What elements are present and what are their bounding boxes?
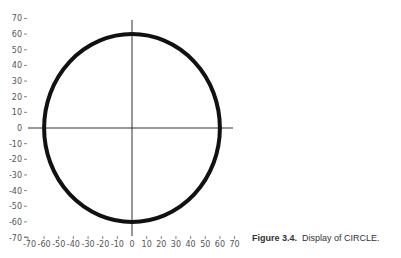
figure-label: Figure 3.4. — [252, 233, 297, 243]
x-tick-label: -30 — [82, 240, 95, 249]
x-tick-label: -10 — [111, 240, 124, 249]
y-tick-label: -10 — [9, 140, 22, 149]
y-tick-label: 60 — [12, 30, 22, 39]
x-tick-label: 0 — [129, 240, 134, 249]
x-tick-label: 40 — [186, 240, 196, 249]
x-axis-ticks: -70-60-50-40-30-20-10010203040506070 — [23, 236, 240, 249]
y-tick-label: 20 — [12, 93, 22, 102]
y-tick-label: -70 — [9, 234, 22, 243]
circle-plot: 706050403020100-10-20-30-40-50-60-70 -70… — [0, 0, 401, 258]
y-tick-label: -60 — [9, 218, 22, 227]
y-tick-label: 10 — [12, 108, 22, 117]
x-tick-label: -40 — [67, 240, 80, 249]
x-tick-label: -20 — [96, 240, 109, 249]
x-tick-label: -60 — [38, 240, 51, 249]
figure-caption-text: Display of CIRCLE. — [302, 233, 380, 243]
x-tick-label: -70 — [23, 240, 36, 249]
figure-caption: Figure 3.4.Display of CIRCLE. — [252, 233, 380, 243]
x-tick-label: 60 — [215, 240, 225, 249]
y-tick-label: -40 — [9, 187, 22, 196]
axes — [28, 20, 233, 236]
y-tick-label: -30 — [9, 171, 22, 180]
x-tick-label: -50 — [52, 240, 65, 249]
y-tick-label: -20 — [9, 155, 22, 164]
y-tick-label: 50 — [12, 46, 22, 55]
x-tick-label: 30 — [171, 240, 181, 249]
y-tick-label: 70 — [12, 14, 22, 23]
y-tick-label: 30 — [12, 77, 22, 86]
x-tick-label: 50 — [200, 240, 210, 249]
x-tick-label: 20 — [156, 240, 166, 249]
y-tick-label: 40 — [12, 61, 22, 70]
y-tick-label: -50 — [9, 202, 22, 211]
x-tick-label: 10 — [142, 240, 152, 249]
y-tick-label: 0 — [17, 124, 22, 133]
x-tick-label: 70 — [229, 240, 239, 249]
y-axis-ticks: 706050403020100-10-20-30-40-50-60-70 — [9, 14, 28, 242]
